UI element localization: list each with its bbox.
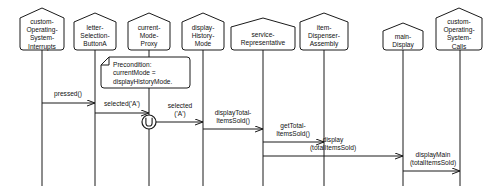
lifeline-custom-operating-system-interrupts[interactable]: custom-Operating-System-Interrupts: [20, 8, 64, 186]
actor-name-line: Interrupts: [28, 43, 57, 51]
message-display-total-items-sold-main[interactable]: display(totalItemsSold): [263, 136, 403, 156]
message-label-line: display: [323, 136, 344, 144]
actor-name-line: History-: [192, 32, 215, 40]
found-message-circle-outline: [142, 115, 156, 129]
lifeline-service-representative[interactable]: service-Representative: [231, 18, 295, 186]
note-fold-corner-icon: [101, 57, 109, 65]
message-label-line: (totalItemsSold): [410, 159, 456, 167]
actor-name-line: Dispenser-: [308, 32, 340, 40]
message-label-line: ItemsSold(): [216, 117, 250, 125]
actor-name-line: display-: [192, 24, 215, 32]
actor-name-line: Display: [392, 41, 414, 49]
note-text-line: currentMode =: [113, 69, 156, 76]
note-layer: Precondition:currentMode =displayHistory…: [101, 57, 190, 88]
note-text-line: Precondition:: [113, 61, 152, 68]
actor-name-line: Calls: [452, 43, 467, 50]
uml-sequence-diagram: custom-Operating-System-Interruptsletter…: [0, 0, 484, 191]
actor-name-line: custom-: [30, 18, 53, 25]
lifeline-display-history-mode[interactable]: display-History-Mode: [182, 13, 224, 186]
actor-name-line: System-: [30, 34, 54, 42]
actor-name-line: System-: [447, 34, 471, 42]
message-label-line: ('A'): [174, 110, 185, 118]
actor-name-line: letter-: [87, 24, 104, 31]
actor-name-line: item-: [317, 24, 332, 31]
message-label-line: pressed(): [54, 90, 82, 98]
found-message-marker-layer: [142, 115, 156, 129]
messages-layer: pressed()selected('A')selected('A')displ…: [42, 90, 460, 171]
message-pressed[interactable]: pressed(): [42, 90, 95, 103]
actor-name-line: Assembly: [310, 40, 339, 48]
message-label-line: selected('A'): [104, 100, 140, 108]
found-message-circle: [142, 115, 156, 129]
message-label-line: displayTotal-: [215, 109, 252, 117]
message-selected-a-2[interactable]: selected('A'): [156, 102, 203, 122]
actor-name-line: Representative: [241, 39, 286, 47]
message-label-line: ItemsSold(): [276, 130, 310, 138]
actor-name-line: Selection-: [80, 32, 109, 39]
actor-name-line: custom-: [447, 18, 470, 25]
precondition-note: Precondition:currentMode =displayHistory…: [101, 57, 190, 88]
message-label-line: selected: [168, 102, 193, 109]
message-label-line: displayMain: [416, 151, 451, 159]
message-selected-a-1[interactable]: selected('A'): [95, 100, 149, 113]
message-label-line: getTotal-: [280, 122, 305, 130]
message-get-total-items-sold[interactable]: getTotal-ItemsSold(): [263, 122, 324, 142]
actor-name-line: Operating-: [443, 26, 474, 34]
actor-name-line: main-: [395, 33, 412, 40]
message-display-main-total-items-sold[interactable]: displayMain(totalItemsSold): [403, 151, 460, 171]
actor-name-line: current-: [138, 24, 161, 31]
actor-name-line: Mode: [195, 40, 212, 47]
diagram-canvas: custom-Operating-System-Interruptsletter…: [0, 0, 484, 191]
actor-name-line: Proxy: [141, 40, 159, 48]
actor-name-line: ButtonA: [83, 40, 107, 47]
message-label-line: (totalItemsSold): [310, 144, 356, 152]
lifeline-item-dispenser-assembly[interactable]: item-Dispenser-Assembly: [300, 13, 348, 186]
message-display-total-items-sold[interactable]: displayTotal-ItemsSold(): [203, 109, 263, 129]
actor-name-line: Mode-: [140, 32, 159, 39]
actor-name-line: Operating-: [26, 26, 57, 34]
note-text-line: displayHistoryMode.: [113, 78, 173, 86]
actor-name-line: service-: [251, 31, 274, 38]
